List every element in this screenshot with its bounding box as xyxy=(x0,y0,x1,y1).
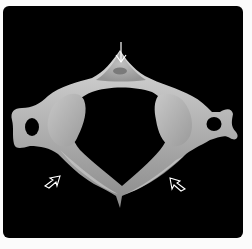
tubercle-depression xyxy=(113,68,127,75)
left-transverse-foramen xyxy=(25,118,39,136)
atlas-vertebra-illustration xyxy=(3,6,243,238)
right-transverse-foramen xyxy=(207,117,222,131)
image-panel xyxy=(3,6,243,238)
arrow-up-left-icon xyxy=(170,178,185,191)
arrow-up-right-icon xyxy=(45,176,60,188)
figure-frame xyxy=(0,0,252,249)
